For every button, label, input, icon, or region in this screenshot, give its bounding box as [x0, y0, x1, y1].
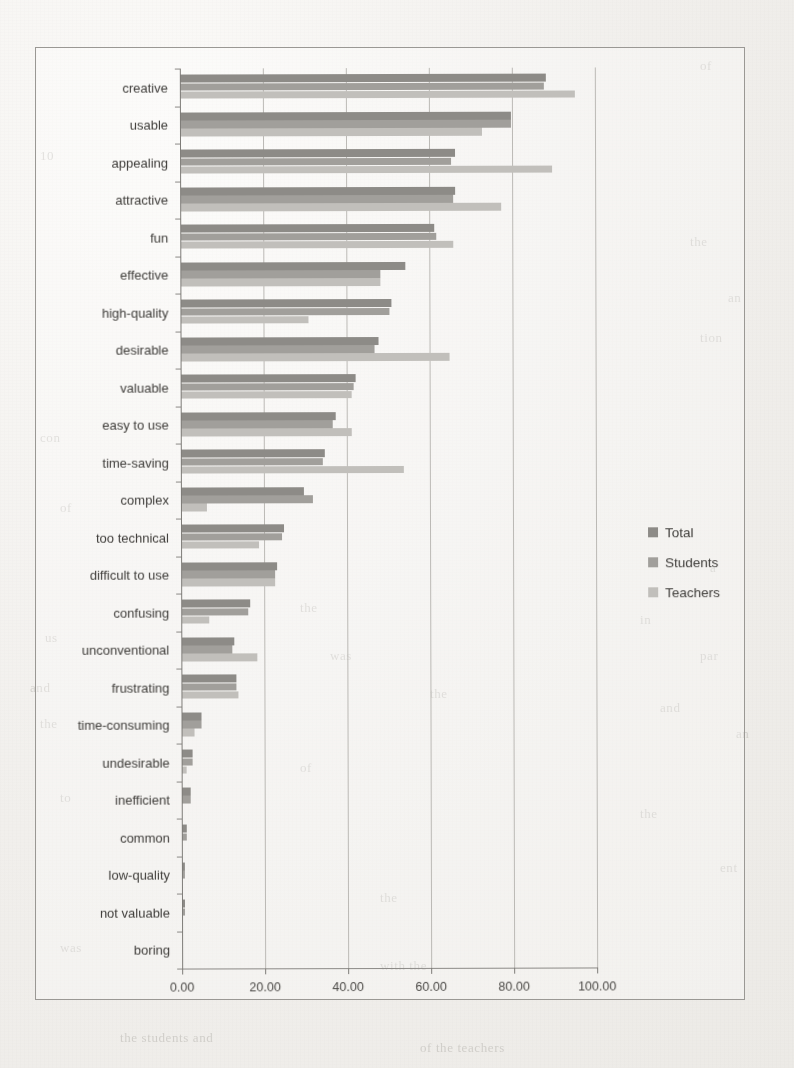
gridline [512, 68, 515, 968]
legend-label: Students [665, 555, 718, 570]
bar-students [182, 420, 333, 428]
legend-swatch-icon [648, 527, 658, 537]
category-label: high-quality [8, 305, 168, 320]
bar-total [182, 375, 356, 383]
bar-total [183, 787, 191, 795]
category-label: usable [8, 117, 168, 132]
x-axis-tick [182, 969, 183, 975]
category-label: difficult to use [9, 567, 169, 582]
category-label: fun [8, 230, 168, 245]
bar-teachers [181, 278, 380, 286]
bar-total [182, 600, 250, 608]
category-label: inefficient [10, 792, 170, 807]
category-label: valuable [9, 380, 169, 395]
y-axis-tick [175, 331, 180, 332]
legend-item-teachers: Teachers [648, 577, 758, 607]
bar-total [182, 712, 201, 720]
legend-swatch-icon [648, 587, 658, 597]
category-label: boring [10, 942, 170, 957]
y-axis-tick [176, 556, 181, 557]
bar-teachers [182, 616, 209, 624]
bar-teachers [182, 428, 352, 436]
bar-total [181, 149, 455, 157]
bar-total [182, 337, 379, 345]
bar-teachers [182, 541, 259, 549]
category-label: low-quality [10, 867, 170, 882]
bar-total [181, 262, 405, 270]
y-axis-tick [176, 594, 181, 595]
bar-teachers [183, 729, 195, 737]
y-axis-tick [175, 181, 180, 182]
category-label: unconventional [9, 642, 169, 657]
bar-series-container [180, 67, 595, 68]
bar-total [182, 487, 304, 495]
y-axis-tick [176, 519, 181, 520]
bar-students [182, 683, 236, 691]
x-axis-tick [265, 968, 266, 974]
y-axis-tick [176, 669, 181, 670]
category-label: desirable [9, 342, 169, 357]
gridline [595, 67, 598, 967]
bar-students [183, 796, 191, 804]
bar-students [183, 721, 202, 729]
y-axis-tick [177, 931, 182, 932]
legend-swatch-icon [648, 557, 658, 567]
y-axis-tick [175, 69, 180, 70]
bar-students [181, 233, 436, 241]
bar-teachers [182, 579, 275, 587]
bar-total [183, 900, 185, 908]
bar-total [182, 637, 234, 645]
bar-students [182, 570, 275, 578]
y-axis-tick [177, 781, 182, 782]
bar-teachers [183, 766, 187, 774]
category-label: attractive [8, 192, 168, 207]
x-axis-tick [431, 968, 432, 974]
bar-teachers [182, 654, 257, 662]
x-axis-tick-label: 80.00 [499, 980, 530, 994]
bar-teachers [181, 203, 501, 211]
category-label: not valuable [10, 905, 170, 920]
bar-total [181, 299, 391, 307]
y-axis-tick [175, 106, 180, 107]
bar-students [183, 871, 185, 879]
bar-total [182, 450, 325, 458]
x-axis-tick-label: 100.00 [578, 979, 616, 993]
bar-students [182, 608, 248, 616]
bar-students [181, 120, 511, 128]
x-axis-tick-label: 20.00 [250, 980, 281, 994]
y-axis-tick [175, 219, 180, 220]
chart-frame: creativeusableappealingattractivefuneffe… [35, 47, 745, 1000]
category-label: easy to use [9, 417, 169, 432]
plot-area: creativeusableappealingattractivefuneffe… [180, 67, 597, 968]
y-axis-tick [176, 706, 181, 707]
bar-students [181, 270, 380, 278]
category-label: appealing [8, 155, 168, 170]
bar-students [183, 758, 193, 766]
bar-total [181, 187, 455, 195]
y-axis-tick [175, 256, 180, 257]
x-axis-tick-label: 60.00 [416, 980, 447, 994]
bar-students [181, 195, 453, 203]
y-axis-ticks [180, 67, 595, 68]
bar-teachers [181, 128, 482, 136]
bar-teachers [182, 353, 450, 361]
category-label: time-saving [9, 455, 169, 470]
bar-students [183, 833, 187, 841]
y-axis-tick [176, 444, 181, 445]
bar-students [181, 82, 544, 91]
y-axis-tick [175, 294, 180, 295]
category-label: effective [8, 267, 168, 282]
category-label: complex [9, 492, 169, 507]
bar-total [181, 112, 511, 120]
x-axis-baseline [180, 67, 595, 68]
bar-total [183, 862, 185, 870]
x-axis-tick [514, 968, 515, 974]
bar-total [183, 750, 193, 758]
bar-students [182, 383, 354, 391]
category-label: common [10, 830, 170, 845]
x-axis-tick [348, 968, 349, 974]
legend-item-students: Students [648, 547, 758, 577]
bar-total [181, 74, 546, 83]
bar-teachers [181, 316, 308, 324]
category-labels: creativeusableappealingattractivefuneffe… [180, 67, 595, 68]
